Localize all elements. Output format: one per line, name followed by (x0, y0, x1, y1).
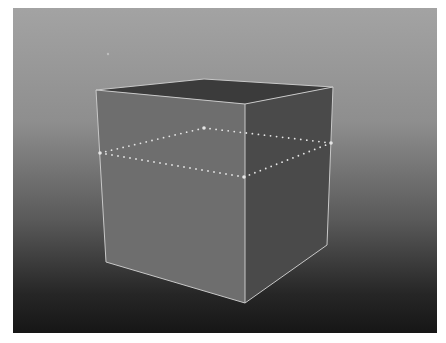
loop-dot (209, 128, 211, 130)
loop-dot (281, 161, 283, 163)
loop-dot (219, 172, 221, 174)
loop-dot (183, 166, 185, 168)
loop-dot (123, 156, 125, 158)
loop-dot (163, 137, 165, 139)
loop-dot (171, 164, 173, 166)
pivot-point-icon (107, 53, 109, 55)
loop-dot (324, 141, 326, 143)
loop-dot (292, 157, 294, 159)
loop-dot (207, 170, 209, 172)
cube-front-left-face[interactable] (96, 90, 245, 303)
loop-dot (264, 134, 266, 136)
loop-dot (145, 141, 147, 143)
loop-dot (306, 139, 308, 141)
loop-dot (297, 155, 299, 157)
loop-dot (237, 175, 239, 177)
loop-dot (287, 159, 289, 161)
loop-vertex (329, 141, 333, 145)
loop-dot (129, 157, 131, 159)
loop-dot (288, 137, 290, 139)
loop-dot (180, 133, 182, 135)
loop-dot (134, 144, 136, 146)
loop-dot (168, 135, 170, 137)
loop-dot (294, 138, 296, 140)
loop-dot (308, 151, 310, 153)
loop-dot (174, 134, 176, 136)
loop-dot (265, 168, 267, 170)
loop-dot (195, 168, 197, 170)
loop-dot (151, 140, 153, 142)
loop-dot (276, 136, 278, 138)
loop-dot (325, 144, 327, 146)
loop-dot (197, 128, 199, 130)
loop-dot (105, 153, 107, 155)
loop-dot (300, 139, 302, 141)
scene-canvas[interactable] (13, 8, 437, 333)
3d-viewport[interactable] (13, 8, 437, 333)
loop-dot (201, 169, 203, 171)
loop-dot (221, 129, 223, 131)
loop-dot (270, 135, 272, 137)
loop-dot (312, 140, 314, 142)
loop-dot (254, 172, 256, 174)
loop-dot (111, 154, 113, 156)
loop-dot (140, 142, 142, 144)
loop-dot (303, 153, 305, 155)
loop-dot (282, 136, 284, 138)
loop-vertex (242, 175, 246, 179)
loop-dot (117, 155, 119, 157)
loop-dot (128, 145, 130, 147)
loop-dot (227, 130, 229, 132)
loop-dot (276, 163, 278, 165)
loop-dot (177, 165, 179, 167)
loop-dot (314, 148, 316, 150)
loop-dot (213, 171, 215, 173)
loop-dot (116, 148, 118, 150)
loop-dot (165, 163, 167, 165)
loop-dot (111, 149, 113, 151)
loop-dot (159, 162, 161, 164)
loop-dot (189, 167, 191, 169)
loop-dot (251, 133, 253, 135)
loop-dot (318, 141, 320, 143)
loop-dot (186, 131, 188, 133)
loop-dot (147, 160, 149, 162)
loop-dot (192, 130, 194, 132)
loop-dot (225, 173, 227, 175)
loop-dot (259, 170, 261, 172)
cube-front-right-face[interactable] (245, 87, 333, 303)
loop-vertex (202, 126, 206, 130)
loop-dot (141, 159, 143, 161)
loop-dot (270, 165, 272, 167)
loop-dot (105, 151, 107, 153)
loop-dot (231, 174, 233, 176)
loop-dot (319, 146, 321, 148)
loop-dot (245, 132, 247, 134)
loop-dot (239, 131, 241, 133)
loop-dot (135, 158, 137, 160)
loop-dot (249, 174, 251, 176)
loop-dot (153, 161, 155, 163)
loop-dot (233, 131, 235, 133)
loop-dot (99, 152, 101, 154)
loop-dot (215, 129, 217, 131)
loop-dot (122, 147, 124, 149)
loop-dot (258, 134, 260, 136)
loop-dot (157, 138, 159, 140)
